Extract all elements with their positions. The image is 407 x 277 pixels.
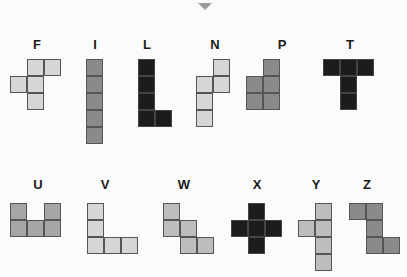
down-caret-icon xyxy=(198,3,212,10)
pentomino-label: L xyxy=(143,38,151,51)
pentomino-cell xyxy=(248,237,265,254)
pentomino-cell xyxy=(340,93,357,110)
pentomino-cell xyxy=(10,203,27,220)
pentomino-cell xyxy=(323,59,340,76)
pentomino-cell xyxy=(263,76,280,93)
pentomino-cell xyxy=(366,237,383,254)
pentomino-cell xyxy=(86,93,103,110)
pentomino-cell xyxy=(231,220,248,237)
pentomino-cell xyxy=(138,76,155,93)
pentomino-cell xyxy=(163,220,180,237)
pentomino-cell xyxy=(27,93,44,110)
pentomino-label: N xyxy=(210,38,219,51)
pentomino-cell xyxy=(349,203,366,220)
pentomino-cell xyxy=(196,93,213,110)
pentomino-cell xyxy=(298,220,315,237)
pentomino-cell xyxy=(27,76,44,93)
pentomino-cell xyxy=(263,59,280,76)
pentomino-cell xyxy=(196,76,213,93)
pentomino-cell xyxy=(340,76,357,93)
pentomino-cell xyxy=(27,59,44,76)
pentomino-cell xyxy=(263,93,280,110)
pentomino-cell xyxy=(180,237,197,254)
pentomino-cell xyxy=(44,59,61,76)
pentomino-label: W xyxy=(178,178,190,191)
pentomino-cell xyxy=(86,127,103,144)
pentomino-label: Z xyxy=(363,178,371,191)
pentomino-cell xyxy=(248,220,265,237)
pentomino-cell xyxy=(86,76,103,93)
pentomino-cell xyxy=(163,203,180,220)
pentomino-cell xyxy=(265,220,282,237)
pentomino-cell xyxy=(197,237,214,254)
pentomino-cell xyxy=(27,220,44,237)
pentomino-cell xyxy=(155,110,172,127)
pentomino-label: T xyxy=(346,38,354,51)
pentomino-cell xyxy=(383,237,400,254)
pentomino-label: P xyxy=(278,38,287,51)
pentomino-cell xyxy=(138,93,155,110)
pentomino-cell xyxy=(121,237,138,254)
pentomino-cell xyxy=(180,220,197,237)
pentomino-cell xyxy=(104,237,121,254)
pentomino-cell xyxy=(357,59,374,76)
pentomino-cell xyxy=(248,203,265,220)
pentomino-label: Y xyxy=(312,178,321,191)
pentomino-cell xyxy=(315,220,332,237)
pentomino-cell xyxy=(213,76,230,93)
pentomino-cell xyxy=(315,254,332,271)
pentomino-cell xyxy=(86,110,103,127)
pentomino-label: U xyxy=(33,178,42,191)
pentomino-cell xyxy=(213,59,230,76)
pentomino-label: I xyxy=(93,38,97,51)
pentomino-label: X xyxy=(253,178,262,191)
pentomino-label: F xyxy=(33,38,41,51)
pentomino-cell xyxy=(246,76,263,93)
pentomino-cell xyxy=(44,220,61,237)
pentomino-cell xyxy=(44,203,61,220)
pentomino-cell xyxy=(10,220,27,237)
pentomino-cell xyxy=(138,110,155,127)
pentomino-cell xyxy=(196,110,213,127)
pentomino-cell xyxy=(315,237,332,254)
pentomino-cell xyxy=(86,59,103,76)
pentomino-cell xyxy=(87,203,104,220)
pentomino-cell xyxy=(246,93,263,110)
pentomino-cell xyxy=(10,76,27,93)
pentomino-cell xyxy=(340,59,357,76)
pentomino-cell xyxy=(366,220,383,237)
pentomino-cell xyxy=(87,237,104,254)
pentomino-cell xyxy=(138,59,155,76)
pentomino-label: V xyxy=(101,178,110,191)
pentomino-cell xyxy=(315,203,332,220)
pentomino-cell xyxy=(366,203,383,220)
pentomino-cell xyxy=(87,220,104,237)
